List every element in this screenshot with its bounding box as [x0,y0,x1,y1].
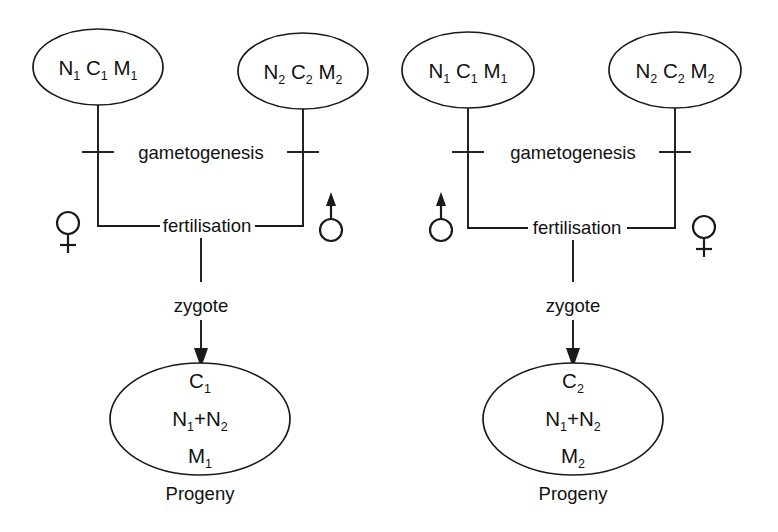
right-progeny-node: C2 N1+N2 M2 Progeny [483,363,663,504]
left-gametogenesis-label: gametogenesis [138,142,263,163]
left-male-symbol [320,192,342,241]
inheritance-diagram: N1 C1 M1 N2 C2 M2 gametogenesis fertilis… [0,0,778,532]
left-female-symbol [57,212,79,253]
genotype-operator: + [567,407,579,430]
left-paternal-lineage-line [255,109,303,226]
left-progeny-caption: Progeny [166,483,236,504]
mars-icon-circle [320,219,342,241]
genotype-letter: M [561,444,578,467]
venus-icon-circle [57,212,79,234]
right-cross-panel: N1 C1 M1 N2 C2 M2 gametogenesis fertilis… [402,32,741,504]
genotype-subscript: 1 [187,420,194,434]
left-parent1-node: N1 C1 M1 [33,29,163,105]
left-cross-panel: N1 C1 M1 N2 C2 M2 gametogenesis fertilis… [33,29,368,504]
genotype-letter: N [172,407,187,430]
genotype-subscript: 2 [221,420,228,434]
genotype-letter: N [429,59,444,82]
left-zygote-label: zygote [174,295,229,316]
genotype-subscript: 1 [204,382,211,396]
genotype-letter: N [59,56,74,79]
genotype-letter: N [636,59,651,82]
left-parent2-node: N2 C2 M2 [238,33,368,109]
genotype-subscript: 2 [708,72,715,86]
genotype-subscript: 1 [443,72,450,86]
left-progeny-nuclear: N1+N2 [172,407,228,434]
genotype-letter: N [579,407,594,430]
genotype-subscript: 1 [560,420,567,434]
right-parent1-genotype: N1 C1 M1 [429,59,508,86]
genotype-letter: N [545,407,560,430]
genotype-letter: N [264,60,279,83]
right-parent2-node: N2 C2 M2 [609,32,741,108]
diagram-canvas: N1 C1 M1 N2 C2 M2 gametogenesis fertilis… [0,0,778,532]
genotype-subscript: 1 [73,69,80,83]
genotype-letter: C [86,56,101,79]
genotype-letter: M [690,59,707,82]
genotype-letter: M [188,444,205,467]
genotype-subscript: 2 [650,72,657,86]
genotype-subscript: 1 [471,72,478,86]
right-paternal-lineage-line [468,108,528,228]
right-female-symbol [693,216,715,257]
left-maternal-lineage-line [98,105,160,226]
right-parent2-genotype: N2 C2 M2 [636,59,715,86]
left-fertilisation-label: fertilisation [163,215,251,236]
venus-icon-circle [693,216,715,238]
right-progeny-nuclear: N1+N2 [545,407,601,434]
genotype-subscript: 1 [501,72,508,86]
genotype-subscript: 2 [336,73,343,87]
right-fertilisation-label: fertilisation [533,217,621,238]
mars-icon-arrowhead [326,192,336,206]
genotype-subscript: 2 [278,73,285,87]
right-progeny-caption: Progeny [539,483,609,504]
genotype-subscript: 2 [594,420,601,434]
right-maternal-lineage-line [627,108,675,228]
genotype-subscript: 2 [578,457,585,471]
right-male-symbol [430,192,452,241]
genotype-subscript: 1 [205,457,212,471]
genotype-subscript: 1 [131,69,138,83]
right-gametogenesis-label: gametogenesis [510,142,635,163]
genotype-letter: M [318,60,335,83]
mars-icon-arrowhead [436,192,446,206]
genotype-subscript: 1 [101,69,108,83]
genotype-letter: C [562,369,577,392]
left-progeny-node: C1 N1+N2 M1 Progeny [110,363,290,504]
genotype-letter: C [663,59,678,82]
left-parent2-genotype: N2 C2 M2 [264,60,343,87]
left-parent1-genotype: N1 C1 M1 [59,56,138,83]
genotype-subscript: 2 [306,73,313,87]
genotype-subscript: 2 [678,72,685,86]
genotype-operator: + [194,407,206,430]
right-parent1-node: N1 C1 M1 [402,32,534,108]
genotype-letter: C [456,59,471,82]
right-zygote-label: zygote [546,295,601,316]
genotype-letter: C [291,60,306,83]
mars-icon-circle [430,219,452,241]
genotype-letter: N [206,407,221,430]
genotype-letter: M [113,56,130,79]
genotype-letter: M [483,59,500,82]
genotype-subscript: 2 [577,382,584,396]
genotype-letter: C [189,369,204,392]
